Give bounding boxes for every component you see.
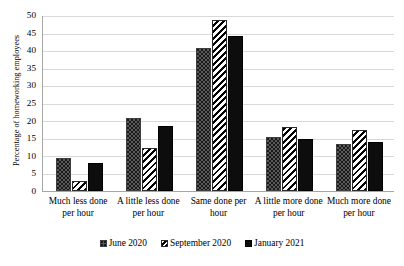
y-tick-5: 5	[31, 170, 36, 179]
category-label-a-little-less: A little less done per hour	[113, 196, 183, 219]
y-tick-20: 20	[27, 117, 36, 126]
bar-january-2021-a-little-less-done-per-hour	[158, 126, 173, 191]
bar-chart: Percentage of homeworking employees 50 4…	[0, 0, 404, 266]
legend-item-june-2020: June 2020	[100, 239, 147, 248]
bar-january-2021-same-done-per-hour	[228, 36, 243, 191]
bar-january-2021-much-less-done-per-hour	[88, 163, 103, 191]
x-axis-category-labels: Much less done per hour A little less do…	[43, 196, 394, 219]
bar-september-2020-much-more-done-per-hour	[352, 130, 367, 191]
category-label-a-little-more: A little more done per hour	[254, 196, 324, 219]
bar-september-2020-a-little-more-done-per-hour	[282, 127, 297, 191]
bar-june-2020-a-little-more-done-per-hour	[266, 137, 281, 191]
bar-september-2020-much-less-done-per-hour	[72, 181, 87, 192]
bar-january-2021-a-little-more-done-per-hour	[298, 139, 313, 191]
legend-swatch-icon-january-2021	[245, 240, 252, 247]
legend-label-june-2020: June 2020	[109, 239, 147, 248]
bar-september-2020-same-done-per-hour	[212, 20, 227, 191]
bar-group-much-more-done-per-hour	[324, 16, 394, 191]
category-label-much-more: Much more done per hour	[324, 196, 394, 219]
plot-area	[42, 16, 394, 192]
category-label-same: Same done per hour	[183, 196, 253, 219]
category-label-much-less: Much less done per hour	[43, 196, 113, 219]
y-tick-0: 0	[31, 187, 36, 196]
bar-june-2020-much-more-done-per-hour	[336, 144, 351, 191]
y-tick-35: 35	[27, 64, 36, 73]
bar-group-a-little-less-done-per-hour	[114, 16, 184, 191]
bar-group-bars	[254, 16, 324, 191]
bar-groups	[44, 16, 394, 191]
legend-item-september-2020: September 2020	[161, 239, 231, 248]
bar-january-2021-much-more-done-per-hour	[368, 142, 383, 191]
legend-item-january-2021: January 2021	[245, 239, 304, 248]
legend-swatch-icon-june-2020	[100, 240, 107, 247]
bar-june-2020-much-less-done-per-hour	[56, 158, 71, 191]
bar-september-2020-a-little-less-done-per-hour	[142, 148, 157, 191]
bar-group-bars	[324, 16, 394, 191]
legend-label-september-2020: September 2020	[170, 239, 231, 248]
bar-group-bars	[44, 16, 114, 191]
y-tick-45: 45	[27, 29, 36, 38]
y-tick-25: 25	[27, 99, 36, 108]
chart-legend: June 2020 September 2020 January 2021	[0, 239, 404, 248]
bar-group-bars	[184, 16, 254, 191]
bar-group-much-less-done-per-hour	[44, 16, 114, 191]
bar-group-bars	[114, 16, 184, 191]
bar-group-a-little-more-done-per-hour	[254, 16, 324, 191]
y-tick-15: 15	[27, 135, 36, 144]
bar-june-2020-same-done-per-hour	[196, 48, 211, 191]
legend-label-january-2021: January 2021	[254, 239, 304, 248]
y-tick-30: 30	[27, 82, 36, 91]
bar-june-2020-a-little-less-done-per-hour	[126, 118, 141, 192]
y-tick-50: 50	[27, 11, 36, 20]
bar-group-same-done-per-hour	[184, 16, 254, 191]
y-axis-tick-labels: 50 45 40 35 30 25 20 15 10 5 0	[0, 16, 40, 192]
legend-swatch-icon-september-2020	[161, 240, 168, 247]
y-tick-40: 40	[27, 47, 36, 56]
y-tick-10: 10	[27, 152, 36, 161]
